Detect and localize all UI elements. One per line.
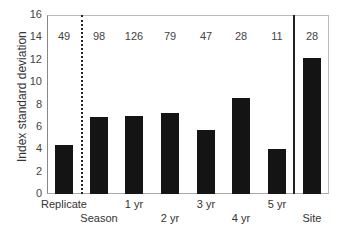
y-tick-label: 16 bbox=[22, 8, 42, 20]
x-tick-label: 4 yr bbox=[211, 212, 271, 224]
y-tick-label: 12 bbox=[22, 53, 42, 65]
bar bbox=[232, 98, 250, 194]
x-tick-label: 5 yr bbox=[247, 198, 307, 210]
dotted-separator bbox=[81, 15, 83, 194]
x-tick-label: Replicate bbox=[34, 198, 94, 210]
y-tick-label: 8 bbox=[22, 98, 42, 110]
x-tick-label: Season bbox=[69, 212, 129, 224]
x-tick-label: 1 yr bbox=[104, 198, 164, 210]
x-tick-label: Site bbox=[282, 212, 342, 224]
solid-separator bbox=[293, 15, 295, 194]
bar bbox=[125, 116, 143, 194]
sample-size-label: 79 bbox=[155, 30, 185, 42]
y-tick-label: 2 bbox=[22, 165, 42, 177]
sample-size-label: 28 bbox=[226, 30, 256, 42]
x-tick-label: 2 yr bbox=[140, 212, 200, 224]
sample-size-label: 11 bbox=[262, 30, 292, 42]
sample-size-label: 98 bbox=[84, 30, 114, 42]
sample-size-label: 47 bbox=[191, 30, 221, 42]
bar bbox=[197, 130, 215, 194]
sample-size-label: 49 bbox=[49, 30, 79, 42]
bar bbox=[161, 113, 179, 194]
bar bbox=[55, 145, 73, 194]
bar bbox=[90, 117, 108, 194]
y-tick-label: 4 bbox=[22, 142, 42, 154]
bar bbox=[268, 149, 286, 194]
sample-size-label: 28 bbox=[297, 30, 327, 42]
y-tick-label: 6 bbox=[22, 120, 42, 132]
y-tick-label: 14 bbox=[22, 30, 42, 42]
sample-size-label: 126 bbox=[119, 30, 149, 42]
bar bbox=[303, 58, 321, 194]
x-tick-label: 3 yr bbox=[176, 198, 236, 210]
y-tick-label: 10 bbox=[22, 75, 42, 87]
